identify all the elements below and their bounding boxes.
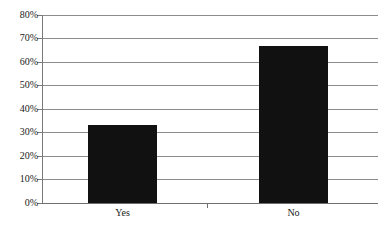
category-label-no: No: [259, 208, 328, 218]
y-axis-label-20: 20%: [0, 151, 42, 161]
y-axis-label-0: 0%: [0, 198, 42, 208]
y-axis-label-40: 40%: [0, 104, 42, 114]
bar-chart: 80% 70% 60% 50% 40% 30% 20% 10% 0% Yes N…: [0, 0, 385, 229]
y-axis-label-60: 60%: [0, 57, 42, 67]
y-axis-label-10: 10%: [0, 174, 42, 184]
y-axis-label-80: 80%: [0, 10, 42, 20]
y-axis-label-50: 50%: [0, 80, 42, 90]
category-label-yes: Yes: [88, 208, 157, 218]
labels-group: 80% 70% 60% 50% 40% 30% 20% 10% 0% Yes N…: [0, 0, 385, 229]
y-axis-label-70: 70%: [0, 33, 42, 43]
y-axis-label-30: 30%: [0, 127, 42, 137]
